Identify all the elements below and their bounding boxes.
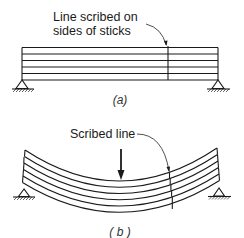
pin-support-left-b-icon (13, 189, 35, 200)
figure-b: Scribed line (13, 127, 231, 238)
down-arrow-icon (118, 149, 125, 180)
caption-b: ( b ) (109, 225, 130, 238)
leader-arrow-a-icon (146, 24, 168, 46)
annotation-b: Scribed line (70, 127, 135, 141)
beam-diagram: Line scribed on sides of sticks (0, 0, 244, 238)
pin-support-right-b-icon (208, 188, 231, 200)
figure-a: Line scribed on sides of sticks (12, 10, 230, 107)
annotation-a-line1: Line scribed on (53, 10, 138, 24)
annotation-a-line2: sides of sticks (53, 24, 131, 38)
pin-support-left-a-icon (12, 80, 34, 92)
pin-support-right-a-icon (207, 80, 230, 92)
caption-a: (a) (113, 93, 128, 107)
stick-stack-a (22, 48, 218, 81)
leader-arrow-b-icon (137, 134, 170, 173)
